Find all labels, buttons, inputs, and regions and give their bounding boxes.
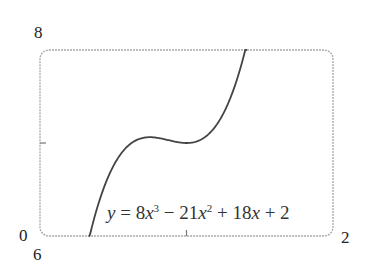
y-min-label: 6 [33,246,42,263]
eq-part: + 2 [260,202,290,223]
eq-x: x [198,202,206,223]
eq-part: − 21 [159,202,198,223]
function-plot [0,0,372,275]
y-max-label: 8 [34,24,43,41]
eq-part: + 18 [212,202,251,223]
eq-part: = 8 [115,202,145,223]
eq-x: x [145,202,153,223]
equation-label: y = 8x3 − 21x2 + 18x + 2 [107,203,290,222]
eq-x: x [251,202,259,223]
x-min-label: 0 [19,227,28,244]
x-max-label: 2 [341,229,350,246]
